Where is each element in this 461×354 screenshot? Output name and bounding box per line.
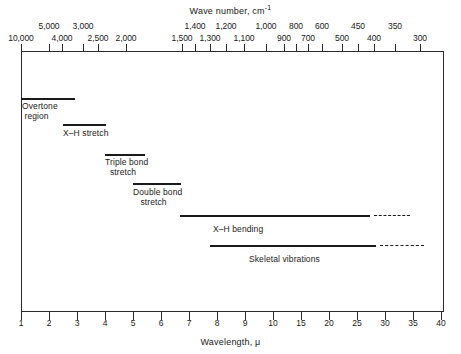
wavelength-tick-label: 30 xyxy=(380,318,389,328)
band-line-solid xyxy=(180,215,370,217)
band-label: X–H stretch xyxy=(63,128,109,138)
wavenumber-tick-label: 400 xyxy=(367,33,381,43)
wavenumber-axis-title: Wave number, cm-1 xyxy=(0,4,461,16)
wavenumber-tick-label: 350 xyxy=(388,21,402,31)
wavenumber-tick-label: 3,000 xyxy=(73,21,94,31)
wavenumber-tick-label: 500 xyxy=(335,33,349,43)
band-line-dashed xyxy=(374,215,410,216)
wavenumber-tick-label: 1,500 xyxy=(172,33,193,43)
wavenumber-tick-label: 700 xyxy=(301,33,315,43)
band-line-solid xyxy=(21,98,75,100)
wavenumber-tick-label: 1,300 xyxy=(200,33,221,43)
wavenumber-axis-title-superscript: -1 xyxy=(265,4,272,11)
wavelength-tick-label: 35 xyxy=(408,318,417,328)
wavenumber-tick-label: 1,400 xyxy=(185,21,206,31)
band-label: X–H bending xyxy=(213,224,263,234)
wavelength-tick-label: 10 xyxy=(268,318,277,328)
wavenumber-tick-label: 800 xyxy=(289,21,303,31)
band-label: Double bond stretch xyxy=(133,187,182,207)
wavelength-tick-label: 7 xyxy=(187,318,192,328)
band-label: Triple bond stretch xyxy=(105,157,148,177)
wavelength-tick-label: 15 xyxy=(296,318,305,328)
band-line-dashed xyxy=(380,245,424,246)
wavenumber-tick-label: 900 xyxy=(277,33,291,43)
wavelength-axis-title-symbol: μ xyxy=(255,337,260,347)
band-line-solid xyxy=(63,124,106,126)
infrared-correlation-chart: Wave number, cm-1 10,0005,0004,0003,0002… xyxy=(0,0,461,354)
wavelength-axis-title-text: Wavelength, xyxy=(201,337,256,347)
wavenumber-tick-label: 5,000 xyxy=(39,21,60,31)
wavelength-tick-label: 4 xyxy=(103,318,108,328)
wavelength-tick-label: 25 xyxy=(352,318,361,328)
wavelength-tick-label: 6 xyxy=(159,318,164,328)
band-line-solid xyxy=(210,245,376,247)
plot-frame xyxy=(21,51,444,312)
wavenumber-tick-label: 10,000 xyxy=(8,33,33,43)
wavenumber-tick-label: 300 xyxy=(413,33,427,43)
wavelength-axis-title: Wavelength, μ xyxy=(0,337,461,347)
wavelength-tick-label: 5 xyxy=(131,318,136,328)
wavelength-tick-label: 3 xyxy=(75,318,80,328)
wavenumber-tick-label: 1,000 xyxy=(256,21,277,31)
wavelength-tick-label: 2 xyxy=(47,318,52,328)
band-line-solid xyxy=(105,154,145,156)
band-label: Skeletal vibrations xyxy=(249,254,320,264)
band-label: Overtone region xyxy=(22,101,58,121)
wavenumber-tick-label: 4,000 xyxy=(52,33,73,43)
wavelength-tick-label: 8 xyxy=(215,318,220,328)
wavelength-tick-label: 1 xyxy=(19,318,24,328)
wavelength-tick-label: 9 xyxy=(243,318,248,328)
wavenumber-tick-label: 450 xyxy=(351,21,365,31)
wavenumber-tick-label: 2,000 xyxy=(116,33,137,43)
band-line-solid xyxy=(133,183,181,185)
wavenumber-tick-label: 2,500 xyxy=(88,33,109,43)
wavenumber-axis-title-text: Wave number, cm xyxy=(190,6,265,16)
wavenumber-tick-label: 1,100 xyxy=(234,33,255,43)
wavenumber-tick-label: 1,200 xyxy=(216,21,237,31)
wavenumber-tick-label: 600 xyxy=(315,21,329,31)
wavelength-tick-label: 20 xyxy=(324,318,333,328)
wavelength-tick-label: 40 xyxy=(436,318,445,328)
caption-remnant xyxy=(0,349,461,354)
